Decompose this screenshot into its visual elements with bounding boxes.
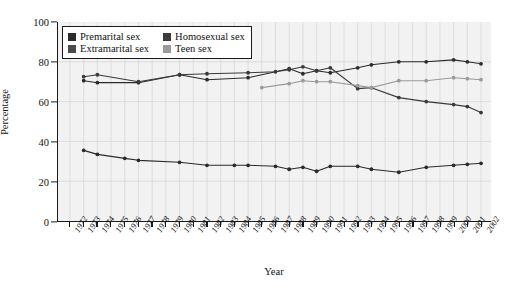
legend-swatch-icon	[68, 45, 76, 53]
x-tick-mark	[110, 222, 111, 227]
x-tick-mark	[138, 222, 139, 227]
x-tick-mark	[220, 222, 221, 227]
legend-item-premarital-sex: Premarital sex	[68, 31, 149, 42]
legend-label: Teen sex	[175, 43, 212, 54]
x-tick-mark	[357, 222, 358, 227]
y-tick-label: 0	[44, 217, 49, 228]
x-tick-mark	[481, 222, 482, 227]
x-tick-mark	[234, 222, 235, 227]
x-tick-mark	[467, 222, 468, 227]
legend-swatch-icon	[163, 45, 171, 53]
x-tick-mark	[69, 222, 70, 227]
legend-label: Premarital sex	[80, 31, 140, 42]
x-tick-mark	[385, 222, 386, 227]
x-tick-mark	[454, 222, 455, 227]
x-tick-mark	[330, 222, 331, 227]
x-tick-mark	[124, 222, 125, 227]
x-tick-mark	[440, 222, 441, 227]
x-tick-mark	[344, 222, 345, 227]
legend-item-extramarital-sex: Extramarital sex	[68, 43, 149, 54]
x-tick-mark	[151, 222, 152, 227]
chart-legend: Premarital sex Homosexual sex Extramarit…	[62, 26, 252, 59]
x-tick-mark	[399, 222, 400, 227]
x-tick-mark	[83, 222, 84, 227]
x-tick-mark	[193, 222, 194, 227]
y-tick-label: 40	[39, 137, 50, 148]
legend-label: Extramarital sex	[80, 43, 149, 54]
x-tick-mark	[261, 222, 262, 227]
y-tick-label: 60	[39, 97, 50, 108]
x-tick-mark	[412, 222, 413, 227]
x-tick-mark	[179, 222, 180, 227]
x-tick-mark	[371, 222, 372, 227]
legend-swatch-icon	[163, 33, 171, 41]
legend-item-homosexual-sex: Homosexual sex	[163, 31, 245, 42]
x-tick-mark	[206, 222, 207, 227]
x-tick-mark	[289, 222, 290, 227]
y-axis: Percentage 020406080100	[0, 0, 57, 224]
x-tick-mark	[96, 222, 97, 227]
y-axis-title: Percentage	[0, 89, 10, 135]
legend-item-teen-sex: Teen sex	[163, 43, 245, 54]
y-tick-label: 20	[39, 177, 50, 188]
x-tick-mark	[275, 222, 276, 227]
legend-label: Homosexual sex	[175, 31, 245, 42]
chart-figure: Percentage 020406080100 1972197319741975…	[0, 0, 507, 289]
x-tick-mark	[426, 222, 427, 227]
y-tick-label: 100	[33, 17, 49, 28]
x-tick-mark	[165, 222, 166, 227]
x-axis-title: Year	[57, 266, 491, 277]
x-tick-mark	[248, 222, 249, 227]
y-tick-label: 80	[39, 57, 50, 68]
legend-swatch-icon	[68, 33, 76, 41]
x-tick-mark	[316, 222, 317, 227]
x-tick-mark	[302, 222, 303, 227]
